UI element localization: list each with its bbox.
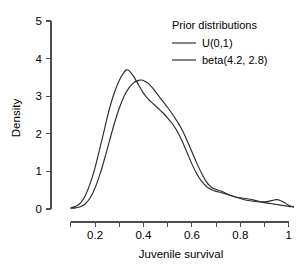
x-tick-label: 0.8 bbox=[232, 229, 248, 241]
y-tick-label: 2 bbox=[36, 128, 42, 140]
x-tick-label: 0.2 bbox=[87, 229, 103, 241]
legend: Prior distributionsU(0,1)beta(4.2, 2.8) bbox=[172, 19, 267, 66]
y-tick-label: 1 bbox=[36, 165, 42, 177]
y-tick-label: 4 bbox=[36, 53, 43, 65]
density-plot-figure: 012345 0.20.40.60.81 Prior distributions… bbox=[0, 0, 306, 271]
y-axis: 012345 bbox=[36, 15, 51, 215]
plot-canvas: 012345 0.20.40.60.81 Prior distributions… bbox=[0, 0, 306, 271]
density-curve-beta bbox=[71, 70, 294, 208]
legend-label-uniform: U(0,1) bbox=[202, 37, 233, 49]
density-curve-uniform bbox=[71, 80, 294, 208]
x-tick-label: 0.6 bbox=[184, 229, 200, 241]
x-axis: 0.20.40.60.81 bbox=[71, 222, 292, 241]
y-tick-label: 5 bbox=[36, 15, 42, 27]
legend-title: Prior distributions bbox=[172, 19, 257, 31]
x-tick-label: 1 bbox=[286, 229, 292, 241]
y-tick-label: 0 bbox=[36, 203, 42, 215]
y-axis-title: Density bbox=[10, 99, 22, 138]
x-axis-title: Juvenile survival bbox=[139, 248, 223, 260]
x-tick-label: 0.4 bbox=[135, 229, 152, 241]
y-tick-label: 3 bbox=[36, 90, 42, 102]
legend-label-beta: beta(4.2, 2.8) bbox=[202, 54, 267, 66]
density-curves bbox=[71, 70, 294, 209]
